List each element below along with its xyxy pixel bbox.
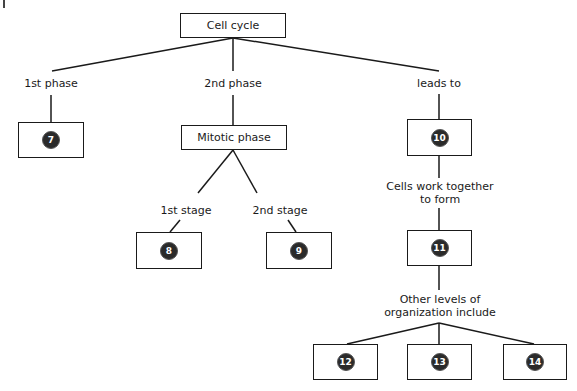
- number-badge-10: 10: [431, 129, 449, 147]
- second-phase-label: 2nd phase: [204, 77, 262, 90]
- cell-cycle-label: Cell cycle: [207, 19, 260, 32]
- blank-box-7[interactable]: 7: [18, 122, 84, 158]
- second-stage-label: 2nd stage: [253, 204, 308, 217]
- number-badge-14: 14: [526, 353, 544, 371]
- blank-box-12[interactable]: 12: [313, 344, 378, 380]
- number-badge-12: 12: [337, 353, 355, 371]
- other-levels-label: Other levels of organization include: [384, 293, 496, 319]
- other-levels-line2: organization include: [384, 306, 496, 319]
- blank-box-11[interactable]: 11: [407, 230, 472, 266]
- first-stage-label: 1st stage: [160, 204, 211, 217]
- blank-box-14[interactable]: 14: [503, 344, 567, 380]
- cells-work-together-label: Cells work together to form: [386, 180, 493, 206]
- number-badge-13: 13: [431, 353, 449, 371]
- blank-box-13[interactable]: 13: [407, 344, 472, 380]
- other-levels-line1: Other levels of: [384, 293, 496, 306]
- blank-box-10[interactable]: 10: [407, 119, 472, 156]
- blank-box-8[interactable]: 8: [136, 232, 202, 269]
- number-badge-8: 8: [160, 242, 178, 260]
- number-badge-9: 9: [290, 242, 308, 260]
- cell-cycle-box: Cell cycle: [180, 13, 286, 38]
- leads-to-label: leads to: [417, 77, 461, 90]
- number-badge-11: 11: [431, 239, 449, 257]
- number-badge-7: 7: [42, 131, 60, 149]
- mitotic-phase-box: Mitotic phase: [181, 125, 287, 150]
- cells-work-together-line2: to form: [386, 193, 493, 206]
- first-phase-label: 1st phase: [24, 77, 78, 90]
- cells-work-together-line1: Cells work together: [386, 180, 493, 193]
- mitotic-phase-label: Mitotic phase: [197, 131, 271, 144]
- blank-box-9[interactable]: 9: [266, 232, 332, 269]
